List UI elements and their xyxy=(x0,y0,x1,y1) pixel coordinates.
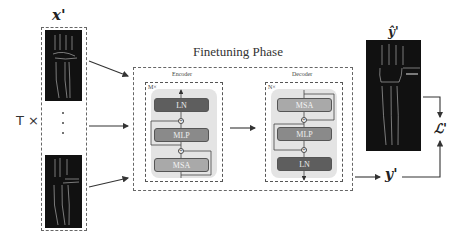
connector-arrows xyxy=(0,0,463,243)
